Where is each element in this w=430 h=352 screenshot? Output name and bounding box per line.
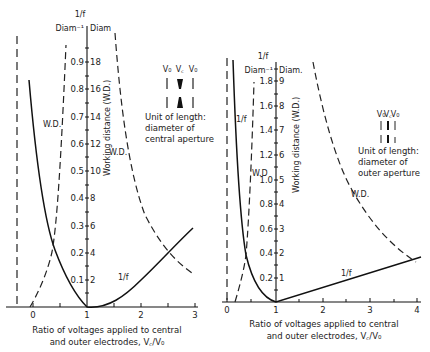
y-top-label: 1/f xyxy=(258,52,269,61)
y-unit-right: Diam. xyxy=(279,66,303,75)
y-unit-right: Diam xyxy=(90,24,111,33)
label-1f: 1/f xyxy=(236,115,247,124)
x-tick: 3 xyxy=(367,305,372,315)
y-tick: 0.5 xyxy=(70,166,84,176)
right-y-left-tick-labels: 0.2 0.4 0.6 0.8 1.0 1.2 1.4 1.6 1.8 xyxy=(259,76,273,283)
inset-label: V₀ xyxy=(163,65,172,74)
inset-caption: diameter of xyxy=(145,123,195,133)
label-wd: W.D. xyxy=(351,190,369,199)
left-y-right-tick-labels: 2 4 6 8 10 12 14 16 18 xyxy=(90,57,101,285)
x-tick: 0 xyxy=(30,310,35,320)
y-tick: 7 xyxy=(279,125,284,135)
label-wd: W.D. xyxy=(43,120,61,129)
x-tick: 3 xyxy=(192,310,197,320)
x-tick: 2 xyxy=(138,310,143,320)
label-wd: W.D xyxy=(252,169,268,178)
left-inset-diagram: V₀ V꜀ V₀ Unit of length: diameter of cen… xyxy=(145,65,214,144)
y-tick: 0.2 xyxy=(259,273,273,283)
inset-label: V₀ xyxy=(189,65,198,74)
figure: 0 1 2 3 0.1 0.2 0.3 0.4 0.5 0.6 0.7 xyxy=(0,0,430,352)
x-axis-label: and outer electrodes, V꜀/V₀ xyxy=(267,331,382,341)
y-tick: 3 xyxy=(279,224,284,234)
y-tick: 0.6 xyxy=(259,224,273,234)
right-y-right-tick-labels: 1 2 3 4 5 6 7 8 9 xyxy=(279,76,284,283)
left-panel: 0 1 2 3 0.1 0.2 0.3 0.4 0.5 0.6 0.7 xyxy=(6,10,214,347)
x-axis-label: Ratio of voltages applied to central xyxy=(249,319,398,329)
left-x-ticks xyxy=(33,303,195,307)
y-tick: 1 xyxy=(279,273,284,283)
right-x-ticks xyxy=(227,298,417,302)
y-tick: 1.6 xyxy=(259,101,273,111)
y-tick: 16 xyxy=(90,84,101,94)
y-unit-left: Diam⁻¹ xyxy=(244,66,273,75)
label-1f: 1/f xyxy=(118,273,129,282)
y-tick: 1.8 xyxy=(259,76,273,86)
inset-caption: central aperture xyxy=(145,134,214,144)
curve-wd-left xyxy=(30,45,66,307)
y-tick: 0.3 xyxy=(70,221,84,231)
y-tick: 6 xyxy=(90,221,95,231)
y-tick: 1.4 xyxy=(259,125,273,135)
y-tick: 10 xyxy=(90,166,101,176)
central-electrode-icon xyxy=(177,97,183,108)
y-tick: 9 xyxy=(279,76,284,86)
x-axis-label: and outer electrodes, V꜀/V₀ xyxy=(50,337,165,347)
inset-caption: Unit of length: xyxy=(358,146,419,156)
x-axis-label: Ratio of voltages applied to central xyxy=(32,325,181,335)
y-tick: 6 xyxy=(279,150,284,160)
inset-caption: outer aperture xyxy=(358,168,420,178)
y-tick: 12 xyxy=(90,139,101,149)
y-tick: 4 xyxy=(90,248,95,258)
y-tick: 0.8 xyxy=(259,199,273,209)
y-tick: 0.9 xyxy=(70,57,84,67)
y-tick: 2 xyxy=(90,275,95,285)
right-x-tick-labels: 0 1 2 3 4 xyxy=(224,305,419,315)
inset-label: V꜀ xyxy=(176,65,184,74)
y-tick: 18 xyxy=(90,57,101,67)
y-tick: 2 xyxy=(279,248,284,258)
y-tick: 0.2 xyxy=(70,248,84,258)
inset-label: V₀ xyxy=(391,110,400,119)
y-tick: 8 xyxy=(90,193,95,203)
y-tick: 1.2 xyxy=(259,150,273,160)
x-tick: 4 xyxy=(414,305,419,315)
label-1f: 1/f xyxy=(341,269,352,278)
y-tick: 8 xyxy=(279,101,284,111)
x-tick: 0 xyxy=(224,305,229,315)
x-tick: 1 xyxy=(84,310,89,320)
y-tick: 14 xyxy=(90,112,101,122)
inset-caption: Unit of length: xyxy=(145,112,206,122)
y-axis-title: Working distance (W.D.) xyxy=(292,97,301,193)
y-tick: 0.4 xyxy=(259,248,273,258)
y-tick: 0.1 xyxy=(70,275,84,285)
central-electrode-icon xyxy=(177,79,183,89)
y-tick: 0.6 xyxy=(70,139,84,149)
y-tick: 5 xyxy=(279,175,284,185)
left-x-tick-labels: 0 1 2 3 xyxy=(30,310,197,320)
right-inset-diagram: V₀ V꜀ V₀ Unit of length: diameter of out… xyxy=(358,110,420,178)
label-wd: W.D. xyxy=(109,148,127,157)
y-top-label: 1/f xyxy=(75,10,86,19)
y-unit-left: Diam⁻¹ xyxy=(55,24,84,33)
y-tick: 0.4 xyxy=(70,193,84,203)
y-tick: 0.7 xyxy=(70,112,84,122)
x-tick: 2 xyxy=(320,305,325,315)
inset-caption: diameter of xyxy=(358,157,408,167)
y-tick: 0.8 xyxy=(70,84,84,94)
right-panel: 0 1 2 3 4 0.2 0.4 0.6 0.8 1.0 1.2 1.4 xyxy=(222,52,421,341)
y-axis-title: Working distance (W.D.) xyxy=(103,80,112,176)
y-tick: 4 xyxy=(279,199,284,209)
x-tick: 1 xyxy=(273,305,278,315)
left-y-left-tick-labels: 0.1 0.2 0.3 0.4 0.5 0.6 0.7 0.8 0.9 xyxy=(70,57,84,285)
